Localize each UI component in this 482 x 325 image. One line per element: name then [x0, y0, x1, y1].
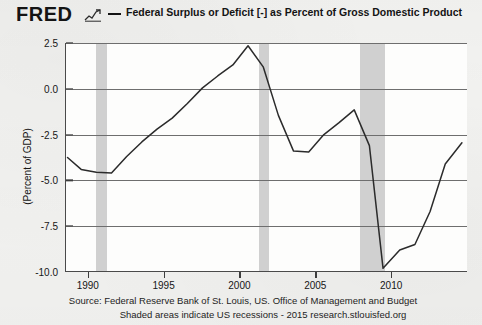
y-tick-label: -5.0	[12, 175, 58, 186]
x-tick-label: 1995	[141, 280, 187, 291]
y-tick-mark	[66, 180, 73, 181]
line-chart-icon	[84, 9, 102, 22]
x-tick-mark	[88, 272, 89, 278]
x-tick-label: 2000	[216, 280, 262, 291]
y-tick-label: 2.5	[12, 38, 58, 49]
chart-header: FRED Federal Surplus or Deficit [-] as P…	[0, 0, 482, 30]
x-tick-label: 2010	[368, 280, 414, 291]
legend-dash-icon	[108, 13, 121, 15]
y-tick-mark	[66, 134, 73, 135]
y-tick-label: -10.0	[12, 267, 58, 278]
plot-area	[65, 43, 467, 272]
y-tick-label: -2.5	[12, 129, 58, 140]
y-axis: (Percent of GDP) 2.50.0-2.5-5.0-7.5-10.0	[8, 43, 58, 272]
series-title: Federal Surplus or Deficit [-] as Percen…	[126, 6, 462, 18]
fred-logo-text: FRED	[16, 3, 72, 26]
recession-note: Shaded areas indicate US recessions - 20…	[0, 308, 482, 322]
x-tick-mark	[239, 272, 240, 278]
fred-chart-page: FRED Federal Surplus or Deficit [-] as P…	[0, 0, 482, 325]
x-tick-label: 1990	[65, 280, 111, 291]
y-tick-mark	[66, 226, 73, 227]
y-tick-mark	[66, 42, 73, 43]
chart-footer: Source: Federal Reserve Bank of St. Loui…	[0, 294, 482, 322]
x-tick-mark	[315, 272, 316, 278]
x-tick-mark	[391, 272, 392, 278]
series-line-federal-surplus-or-deficit	[66, 43, 468, 272]
y-tick-mark	[66, 88, 73, 89]
y-axis-title: (Percent of GDP)	[22, 102, 33, 232]
y-tick-label: -7.5	[12, 221, 58, 232]
source-note: Source: Federal Reserve Bank of St. Loui…	[0, 294, 482, 308]
y-tick-label: 0.0	[12, 83, 58, 94]
x-tick-mark	[164, 272, 165, 278]
x-tick-label: 2005	[292, 280, 338, 291]
